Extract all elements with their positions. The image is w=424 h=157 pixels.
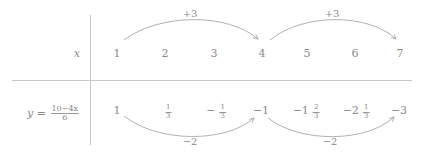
top-arc-label-2: +3 — [325, 8, 340, 19]
bottom-arc-label-1: −2 — [183, 136, 198, 147]
bottom-arc-1 — [124, 116, 254, 137]
top-arc-1 — [124, 20, 258, 40]
bottom-arc-2 — [268, 117, 394, 137]
function-table-diagram: x y = 10−4x 6 1 2 3 4 5 6 7 1 1 3 − 1 3 — [0, 0, 424, 157]
top-arc-2 — [270, 20, 396, 40]
arrow-arcs — [0, 0, 424, 157]
bottom-arc-label-2: −2 — [323, 136, 338, 147]
top-arc-label-1: +3 — [183, 8, 198, 19]
